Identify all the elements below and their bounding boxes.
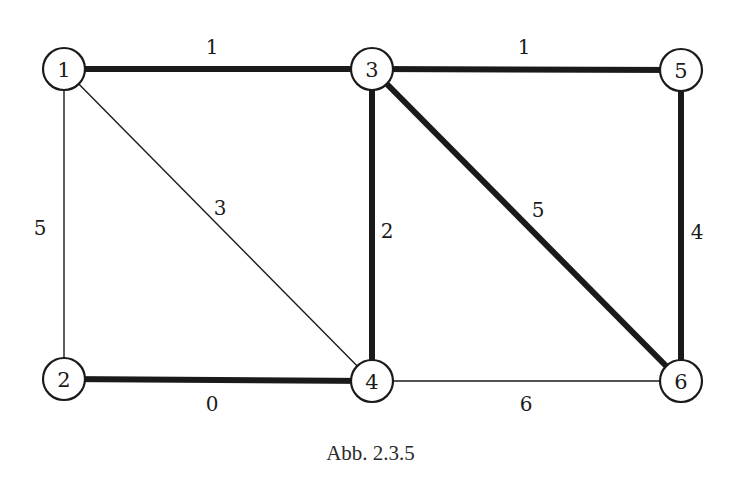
graph-diagram: 115325406 123456	[0, 0, 741, 491]
node-label: 5	[674, 59, 687, 83]
node-5: 5	[660, 49, 702, 91]
edge-2-4-bold	[64, 379, 372, 381]
edge-weight-3-5: 1	[518, 35, 531, 59]
edge-weight-1-4: 3	[214, 196, 227, 220]
edge-weight-2-4: 0	[206, 392, 219, 416]
edge-3-6-bold	[372, 69, 681, 381]
node-1: 1	[43, 48, 85, 90]
node-2: 2	[43, 358, 85, 400]
edge-weight-3-6: 5	[532, 198, 545, 222]
edge-weight-1-2: 5	[34, 216, 47, 240]
node-4: 4	[351, 360, 393, 402]
node-label: 2	[57, 368, 70, 392]
edge-weight-5-6: 4	[691, 220, 704, 244]
edge-labels-group: 115325406	[34, 35, 704, 416]
node-label: 1	[57, 58, 70, 82]
edges-group	[64, 69, 681, 381]
node-6: 6	[660, 360, 702, 402]
node-label: 6	[674, 370, 687, 394]
edge-3-5-bold	[372, 69, 681, 70]
edge-weight-4-6: 6	[520, 392, 533, 416]
edge-weight-1-3: 1	[206, 35, 219, 59]
edge-weight-3-4: 2	[381, 219, 394, 243]
edge-1-4	[64, 69, 372, 381]
node-label: 4	[365, 370, 378, 394]
figure-caption: Abb. 2.3.5	[0, 441, 741, 466]
node-label: 3	[365, 58, 378, 82]
node-3: 3	[351, 48, 393, 90]
